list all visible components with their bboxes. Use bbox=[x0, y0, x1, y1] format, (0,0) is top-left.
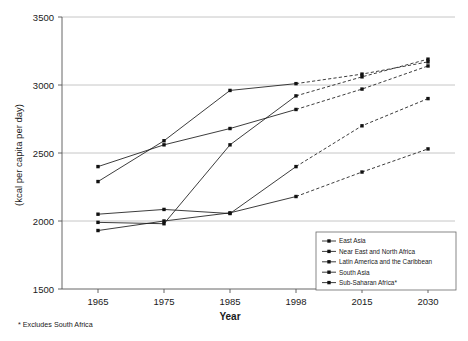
data-point-marker bbox=[360, 87, 363, 90]
x-tick-label: 2030 bbox=[417, 296, 438, 307]
data-point-marker bbox=[360, 170, 363, 173]
y-tick-label: 2500 bbox=[33, 148, 54, 159]
legend-marker-point bbox=[327, 239, 330, 242]
x-tick-label: 1965 bbox=[87, 296, 108, 307]
legend-item-label[interactable]: East Asia bbox=[339, 237, 366, 244]
legend-item-label[interactable]: Latin America and the Caribbean bbox=[339, 258, 433, 265]
y-axis-title: (kcal per capita per day) bbox=[13, 104, 24, 206]
data-point-marker bbox=[96, 229, 99, 232]
x-tick-label: 1985 bbox=[219, 296, 240, 307]
legend-marker-point bbox=[327, 250, 330, 253]
x-tick-label: 2015 bbox=[351, 296, 372, 307]
data-point-marker bbox=[360, 72, 363, 75]
data-point-marker bbox=[162, 219, 165, 222]
line-chart: 15002000250030003500 1965197519851998201… bbox=[0, 0, 468, 341]
legend-item-label[interactable]: South Asia bbox=[339, 269, 370, 276]
data-point-marker bbox=[162, 143, 165, 146]
data-point-marker bbox=[228, 89, 231, 92]
y-tick-label: 3000 bbox=[33, 80, 54, 91]
data-point-marker bbox=[96, 213, 99, 216]
data-point-marker bbox=[228, 127, 231, 130]
x-tick-label: 1998 bbox=[285, 296, 306, 307]
y-tick-label: 3500 bbox=[33, 12, 54, 23]
data-point-marker bbox=[294, 108, 297, 111]
x-tick-label: 1975 bbox=[153, 296, 174, 307]
data-point-marker bbox=[426, 64, 429, 67]
data-point-marker bbox=[96, 165, 99, 168]
legend-marker-point bbox=[327, 281, 330, 284]
data-point-marker bbox=[96, 180, 99, 183]
footnote-text: * Excludes South Africa bbox=[18, 320, 93, 329]
data-point-marker bbox=[426, 60, 429, 63]
data-point-marker bbox=[294, 195, 297, 198]
data-point-marker bbox=[426, 97, 429, 100]
data-point-marker bbox=[294, 165, 297, 168]
y-tick-label: 2000 bbox=[33, 216, 54, 227]
data-point-marker bbox=[96, 221, 99, 224]
data-point-marker bbox=[162, 139, 165, 142]
chart-container: 15002000250030003500 1965197519851998201… bbox=[0, 0, 468, 341]
legend-marker-point bbox=[327, 260, 330, 263]
legend-marker-point bbox=[327, 271, 330, 274]
data-point-marker bbox=[294, 94, 297, 97]
x-axis-title: Year bbox=[219, 311, 240, 322]
y-tick-label: 1500 bbox=[33, 284, 54, 295]
data-point-marker bbox=[228, 143, 231, 146]
data-point-marker bbox=[426, 147, 429, 150]
data-point-marker bbox=[228, 211, 231, 214]
legend-item-label[interactable]: Near East and North Africa bbox=[339, 248, 415, 255]
legend-item-label[interactable]: Sub-Saharan Africa* bbox=[339, 279, 397, 286]
data-point-marker bbox=[360, 124, 363, 127]
chart-legend[interactable]: East AsiaNear East and North AfricaLatin… bbox=[316, 232, 456, 290]
data-point-marker bbox=[162, 208, 165, 211]
data-point-marker bbox=[294, 82, 297, 85]
